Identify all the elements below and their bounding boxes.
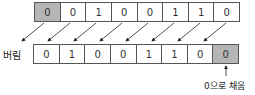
shifted-bit-row: 0 1 0 0 1 1 0 0 (33, 44, 239, 64)
bit-cell: 1 (60, 45, 86, 63)
bit-cell: 0 (85, 45, 111, 63)
bit-cell-filled: 0 (213, 45, 238, 63)
bit-cell: 0 (188, 45, 214, 63)
bit-cell: 1 (137, 45, 163, 63)
discard-arrow-icon (22, 23, 44, 41)
bit-cell: 0 (111, 45, 137, 63)
discard-label: 버림 (3, 47, 21, 62)
bit-cell: 0 (34, 45, 60, 63)
fill-label: 0으로 채움 (204, 79, 245, 92)
bit-cell: 1 (162, 45, 188, 63)
